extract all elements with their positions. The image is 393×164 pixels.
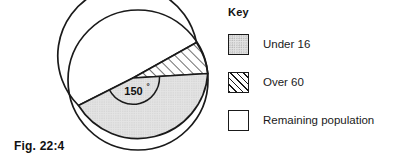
key-legend: Key Under 16 Over 60 Remaining populatio…: [228, 6, 393, 139]
key-item-over-60: Over 60: [228, 63, 393, 101]
key-title: Key: [228, 6, 393, 18]
swatch-under-16-icon: [228, 34, 249, 55]
key-label-remaining-population: Remaining population: [263, 114, 374, 126]
key-item-under-16: Under 16: [228, 25, 393, 63]
swatch-remaining-population-icon: [228, 110, 249, 131]
key-label-over-60: Over 60: [263, 76, 304, 88]
key-item-remaining-population: Remaining population: [228, 101, 393, 139]
figure-caption: Fig. 22:4: [14, 139, 64, 153]
figure-container: 150 ° Fig. 22:4 Key Under 16 Over 60 Rem…: [0, 0, 393, 164]
degree-symbol: °: [146, 82, 149, 91]
angle-value-label: 150: [124, 85, 142, 97]
key-label-under-16: Under 16: [263, 38, 310, 50]
swatch-over-60-icon: [228, 72, 249, 93]
